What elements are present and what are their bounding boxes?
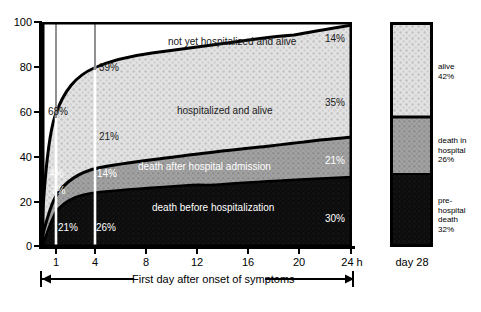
pct-label-1h-death-before: 21% xyxy=(58,222,78,233)
y-tick-label-60: 60 xyxy=(6,107,32,118)
x-range-bracket-line-left xyxy=(42,278,134,280)
x-tick-label-20: 20 xyxy=(287,257,311,268)
x-axis-caption: First day after onset of symptoms xyxy=(132,273,268,285)
band-label-not-yet-hospitalized-and-alive: not yet hospitalized and alive xyxy=(168,36,296,47)
plot-area xyxy=(42,22,352,247)
x-tick-mark-4 xyxy=(94,248,96,254)
y-tick-label-100: 100 xyxy=(6,17,32,28)
pct-label-24h-death-before: 30% xyxy=(325,213,345,224)
chart-root: 100 80 60 40 20 0 xyxy=(0,0,481,312)
y-tick-label-80: 80 xyxy=(6,62,32,73)
pct-label-4h-hospitalized: 21% xyxy=(99,131,119,142)
x-tick-mark-1 xyxy=(55,248,57,254)
pct-label-4h-death-after: 14% xyxy=(97,168,117,179)
day28-segment-prehospital-death xyxy=(393,174,430,244)
day28-segment-death-in-hospital xyxy=(393,117,430,174)
pct-label-24h-hospitalized: 35% xyxy=(325,97,345,108)
day28-caption: day 28 xyxy=(383,256,441,268)
band-label-death-before-hospitalization: death before hospitalization xyxy=(152,202,274,213)
pct-label-1h-death-after: 7% xyxy=(51,185,65,196)
x-tick-mark-20 xyxy=(298,248,300,254)
x-tick-mark-16 xyxy=(247,248,249,254)
y-tick-label-0: 0 xyxy=(6,241,32,252)
x-tick-label-4: 4 xyxy=(83,257,107,268)
band-label-death-after-hospital-admission: death after hospital admission xyxy=(138,161,271,172)
x-tick-label-16: 16 xyxy=(236,257,260,268)
day28-bar-svg xyxy=(393,25,430,244)
x-tick-label-8: 8 xyxy=(134,257,158,268)
band-label-hospitalized-and-alive: hospitalized and alive xyxy=(177,105,273,116)
pct-label-24h-not-yet: 14% xyxy=(325,33,345,44)
x-tick-label-1: 1 xyxy=(44,257,68,268)
pct-label-1h-hospitalized: 4% xyxy=(49,168,63,179)
day28-legend-alive: alive 42% xyxy=(438,62,480,81)
day28-legend-death-in-hospital: death in hospital 26% xyxy=(438,136,480,165)
x-range-arrow-right xyxy=(342,273,354,285)
x-tick-label-24: 24 h xyxy=(334,257,370,268)
x-range-arrow-left xyxy=(42,273,54,285)
stacked-area-svg xyxy=(42,22,352,247)
day28-segment-alive xyxy=(393,25,430,117)
x-tick-mark-8 xyxy=(145,248,147,254)
day28-legend-prehospital-death: pre- hospital death 32% xyxy=(438,196,480,234)
y-tick-label-40: 40 xyxy=(6,152,32,163)
x-tick-mark-12 xyxy=(196,248,198,254)
x-tick-label-12: 12 xyxy=(185,257,209,268)
pct-label-4h-death-before: 26% xyxy=(96,222,116,233)
y-tick-label-20: 20 xyxy=(6,197,32,208)
pct-label-1h-not-yet: 68% xyxy=(48,106,68,117)
x-tick-mark-24 xyxy=(350,248,352,254)
day28-stacked-bar xyxy=(390,22,433,247)
pct-label-4h-not-yet: 39% xyxy=(99,62,119,73)
pct-label-24h-death-after: 21% xyxy=(325,155,345,166)
